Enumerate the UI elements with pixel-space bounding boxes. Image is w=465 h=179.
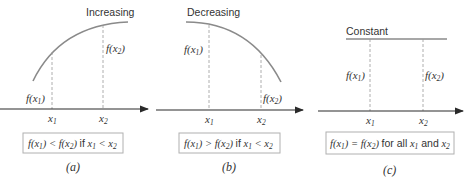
f-x1-label: f(x1) [184, 43, 203, 57]
x1-tick-label: x1 [47, 112, 57, 126]
f-x1-label: f(x1) [346, 69, 365, 83]
panel-decreasing: Decreasing f(x1) f(x2) x1 x2 f(x1) > f(x… [156, 6, 303, 174]
f-x2-label: f(x2) [425, 69, 444, 83]
x2-tick-label: x2 [98, 112, 108, 126]
f-x1-label: f(x1) [26, 92, 45, 106]
panel-title: Increasing [86, 6, 135, 18]
panel-increasing: Increasing f(x2) f(x1) x1 x2 f(x1) < f(x… [0, 6, 148, 174]
panel-constant: Constant f(x1) f(x2) x1 x2 f(x1) = f(x2)… [318, 25, 463, 177]
x2-tick-label: x2 [418, 114, 428, 128]
condition-text: f(x1) = f(x2) for all x1 and x2 [330, 137, 450, 151]
panel-title: Decreasing [187, 6, 240, 18]
x2-tick-label: x2 [256, 113, 266, 127]
f-x2-label: f(x2) [263, 92, 282, 106]
panel-title: Constant [346, 25, 388, 37]
function-behavior-diagram: Increasing f(x2) f(x1) x1 x2 f(x1) < f(x… [0, 0, 465, 179]
caption: (b) [222, 160, 236, 174]
x1-tick-label: x1 [365, 114, 375, 128]
x1-tick-label: x1 [204, 113, 214, 127]
f-x2-label: f(x2) [106, 42, 125, 56]
caption: (a) [66, 160, 80, 174]
caption: (c) [383, 163, 396, 177]
